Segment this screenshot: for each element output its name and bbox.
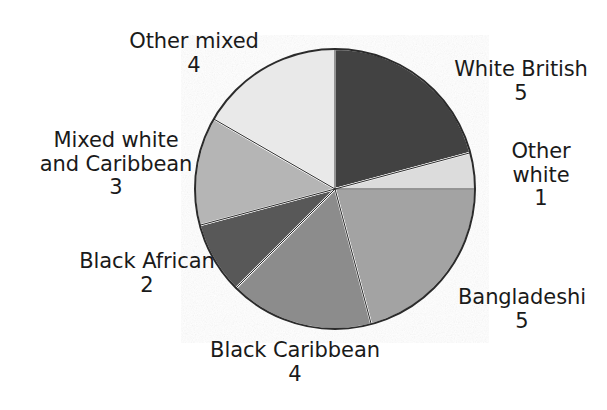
pie-slices-group	[195, 49, 475, 329]
pie-label-other-mixed: Other mixed 4	[104, 30, 284, 77]
pie-label-black-caribbean-name: Black Caribbean	[189, 339, 401, 363]
pie-label-bangladeshi: Bangladeshi 5	[442, 286, 602, 333]
pie-label-black-caribbean-value: 4	[189, 363, 401, 387]
pie-chart-figure: Other mixed 4 White British 5 Other whit…	[0, 0, 607, 410]
pie-label-black-african-name: Black African	[58, 250, 236, 274]
pie-label-other-white-value: 1	[489, 187, 593, 211]
pie-label-other-white-name-line1: Other	[489, 140, 593, 164]
pie-label-white-british: White British 5	[438, 58, 604, 105]
pie-label-mixed-white-and-caribbean: Mixed white and Caribbean 3	[20, 129, 212, 200]
pie-label-white-british-value: 5	[438, 82, 604, 106]
pie-label-other-white-name-line2: white	[489, 164, 593, 188]
pie-label-mixed-white-name-line1: Mixed white	[20, 129, 212, 153]
pie-label-bangladeshi-name: Bangladeshi	[442, 286, 602, 310]
pie-label-other-white: Other white 1	[489, 140, 593, 211]
pie-label-mixed-white-name-line2: and Caribbean	[20, 153, 212, 177]
pie-label-black-african-value: 2	[58, 274, 236, 298]
pie-label-white-british-name: White British	[438, 58, 604, 82]
pie-label-black-caribbean: Black Caribbean 4	[189, 339, 401, 386]
pie-label-black-african: Black African 2	[58, 250, 236, 297]
pie-label-bangladeshi-value: 5	[442, 310, 602, 334]
pie-label-other-mixed-value: 4	[104, 54, 284, 78]
pie-label-other-mixed-name: Other mixed	[104, 30, 284, 54]
pie-label-mixed-white-value: 3	[20, 176, 212, 200]
